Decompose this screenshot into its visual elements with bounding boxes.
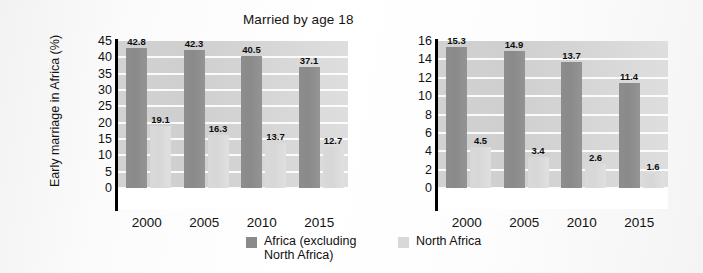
bar-value-label: 42.8 — [120, 37, 153, 47]
bar — [619, 83, 640, 188]
legend: Africa (excluding North Africa) North Af… — [0, 234, 703, 273]
y-axis-tick-label: 45 — [86, 35, 112, 48]
bar-value-label: 15.3 — [440, 36, 473, 46]
y-axis-line-18 — [115, 39, 118, 211]
legend-swatch-dark-icon — [246, 237, 257, 248]
y-axis-tick-label: 16 — [410, 35, 432, 48]
x-axis-tick-label: 2015 — [285, 215, 355, 230]
bar-value-label: 13.7 — [259, 132, 292, 142]
bar — [265, 143, 286, 188]
bar — [446, 47, 467, 188]
bar-value-label: 11.4 — [613, 72, 646, 82]
legend-item-africa-excluding-north-africa[interactable]: Africa (excluding North Africa) — [246, 235, 356, 262]
bar-value-label: 14.9 — [498, 40, 531, 50]
y-axis-tick-label: 20 — [86, 117, 112, 130]
legend-label-north-africa: North Africa — [416, 235, 481, 249]
y-axis-tick-label: 10 — [86, 149, 112, 162]
bar — [528, 157, 549, 188]
chart-title-18: Married by age 18 — [243, 12, 354, 27]
legend-item-north-africa[interactable]: North Africa — [398, 235, 481, 249]
bar — [323, 147, 344, 188]
bar-value-label: 12.7 — [317, 136, 350, 146]
y-axis-tick-label: 6 — [410, 127, 432, 140]
y-axis-tick-label: 12 — [410, 72, 432, 85]
bar-value-label: 40.5 — [235, 45, 268, 55]
figure-canvas: Early marriage in Africa (%) Married by … — [0, 0, 703, 273]
y-axis-tick-label: 0 — [86, 182, 112, 195]
bar-value-label: 1.6 — [637, 162, 670, 172]
bar — [470, 147, 491, 188]
bar — [561, 62, 582, 188]
bar-value-label: 37.1 — [293, 56, 326, 66]
bar-value-label: 4.5 — [464, 136, 497, 146]
y-axis-tick-label: 25 — [86, 100, 112, 113]
baseline-band-18 — [118, 188, 348, 209]
bar-value-label: 42.3 — [178, 39, 211, 49]
bar — [241, 56, 262, 188]
bar — [150, 126, 171, 188]
gridline — [438, 58, 668, 60]
bar — [504, 51, 525, 188]
y-axis-tick-label: 4 — [410, 145, 432, 158]
bar — [643, 173, 664, 188]
y-axis-tick-label: 8 — [410, 109, 432, 122]
bar — [184, 50, 205, 188]
y-axis-tick-label: 10 — [410, 90, 432, 103]
bar-value-label: 13.7 — [555, 51, 588, 61]
y-axis-tick-label: 30 — [86, 84, 112, 97]
bar-value-label: 2.6 — [579, 153, 612, 163]
bar-value-label: 19.1 — [144, 115, 177, 125]
bar — [208, 135, 229, 188]
y-axis-tick-label: 5 — [86, 166, 112, 179]
y-axis-tick-label: 2 — [410, 164, 432, 177]
bar — [299, 67, 320, 188]
y-axis-tick-label: 15 — [86, 133, 112, 146]
legend-swatch-light-icon — [398, 237, 409, 248]
y-axis-tick-label: 35 — [86, 68, 112, 81]
y-axis-tick-label: 40 — [86, 51, 112, 64]
x-axis-tick-label: 2015 — [605, 215, 675, 230]
bar — [585, 164, 606, 188]
baseline-band-15 — [438, 188, 668, 209]
y-axis-tick-label: 0 — [410, 182, 432, 195]
bar-value-label: 16.3 — [202, 124, 235, 134]
legend-label-africa: Africa (excluding North Africa) — [264, 235, 356, 262]
y-axis-tick-label: 14 — [410, 53, 432, 66]
bar-value-label: 3.4 — [522, 146, 555, 156]
y-axis-line-15 — [435, 39, 438, 211]
